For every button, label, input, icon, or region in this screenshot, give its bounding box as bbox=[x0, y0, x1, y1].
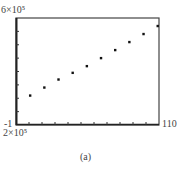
data-point bbox=[57, 78, 59, 80]
data-point bbox=[43, 86, 45, 88]
x-axis-right-label: 110 bbox=[162, 119, 177, 129]
data-point bbox=[29, 94, 31, 96]
plot-frame bbox=[16, 18, 159, 125]
data-point bbox=[114, 49, 116, 51]
data-point bbox=[157, 25, 159, 27]
data-point bbox=[142, 33, 144, 35]
figure-caption: (a) bbox=[80, 152, 91, 162]
data-point bbox=[100, 57, 102, 59]
data-point bbox=[86, 65, 88, 67]
y-axis-bottom-label: 2×10⁵ bbox=[3, 128, 27, 138]
data-points bbox=[29, 25, 159, 97]
data-point bbox=[128, 41, 130, 43]
y-axis-top-label: 6×10⁵ bbox=[1, 5, 25, 15]
data-point bbox=[71, 72, 73, 74]
